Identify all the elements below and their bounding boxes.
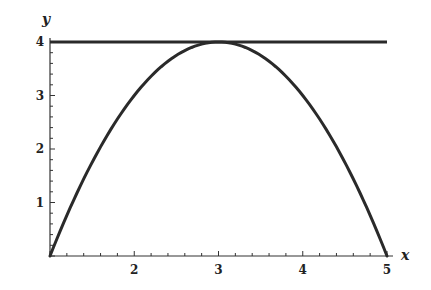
x-tick-label: 3 bbox=[214, 263, 222, 277]
x-tick-label: 4 bbox=[299, 263, 307, 277]
y-axis-label: y bbox=[41, 11, 51, 27]
x-axis-label: x bbox=[400, 247, 410, 263]
x-tick-label: 5 bbox=[383, 263, 391, 277]
chart: 23451234 x y bbox=[0, 0, 431, 290]
y-tick-label: 4 bbox=[36, 35, 44, 49]
y-tick-label: 3 bbox=[36, 89, 44, 103]
parabola-curve bbox=[50, 42, 387, 256]
x-tick-label: 2 bbox=[130, 263, 138, 277]
y-tick-label: 2 bbox=[36, 142, 44, 156]
series bbox=[50, 42, 387, 256]
y-tick-label: 1 bbox=[36, 196, 44, 210]
ticks: 23451234 bbox=[36, 35, 392, 277]
